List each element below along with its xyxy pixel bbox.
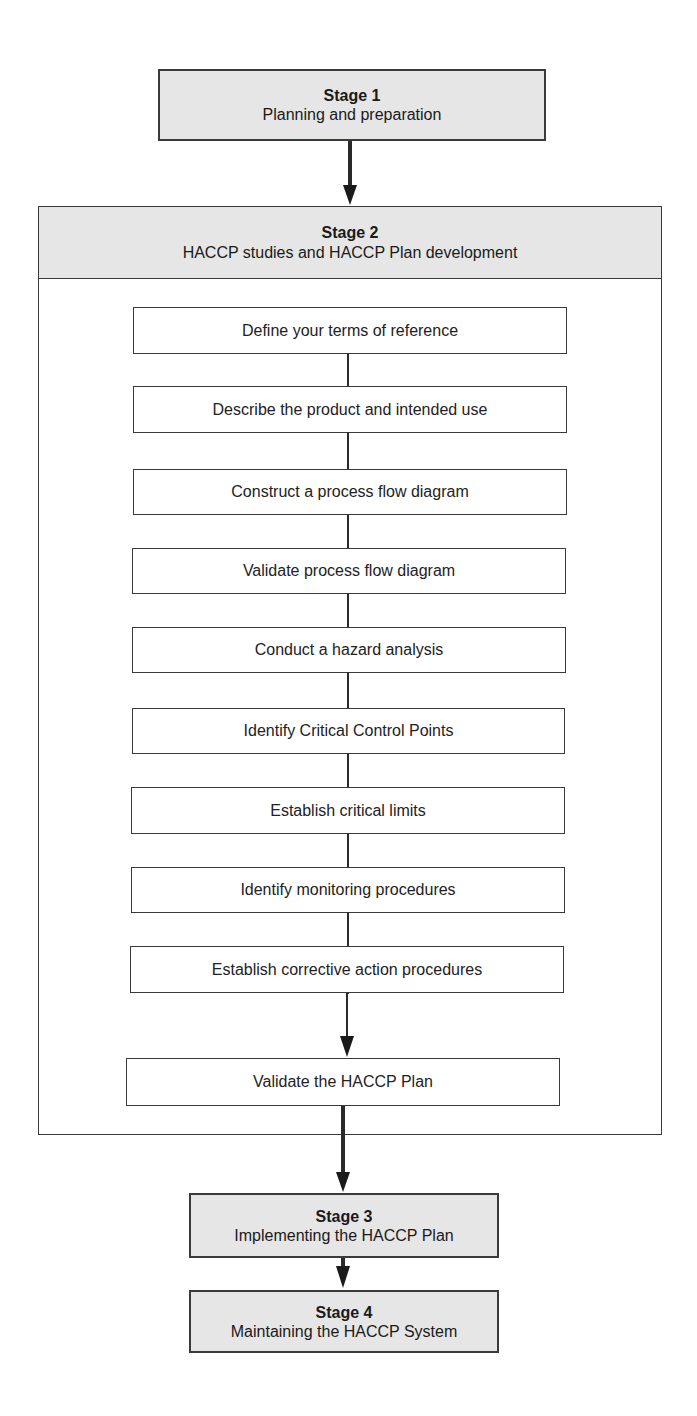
step-label: Define your terms of reference [242, 322, 458, 340]
stage-3-subtitle: Implementing the HACCP Plan [234, 1226, 453, 1245]
stage-2-title: Stage 2 [322, 223, 379, 243]
step-monitoring-procedures: Identify monitoring procedures [131, 867, 565, 913]
stage-3-box: Stage 3 Implementing the HACCP Plan [189, 1193, 499, 1258]
stage-2-subtitle: HACCP studies and HACCP Plan development [183, 243, 518, 263]
step-identify-ccps: Identify Critical Control Points [132, 708, 565, 754]
step-validate-haccp-plan: Validate the HACCP Plan [126, 1058, 560, 1106]
step-construct-flow-diagram: Construct a process flow diagram [133, 469, 567, 515]
step-label: Establish critical limits [270, 802, 426, 820]
arrow-down-icon [343, 185, 357, 205]
step-validate-flow-diagram: Validate process flow diagram [132, 548, 566, 594]
stage-1-box: Stage 1 Planning and preparation [158, 69, 546, 141]
step-label: Identify Critical Control Points [244, 722, 454, 740]
step-label: Validate the HACCP Plan [253, 1073, 433, 1091]
step-corrective-actions: Establish corrective action procedures [130, 946, 564, 993]
arrow-down-icon [340, 1036, 354, 1057]
stage-4-title: Stage 4 [316, 1303, 373, 1322]
connector-to-validate [346, 993, 348, 1038]
step-label: Conduct a hazard analysis [255, 641, 444, 659]
step-label: Describe the product and intended use [213, 401, 488, 419]
stage-4-box: Stage 4 Maintaining the HACCP System [189, 1290, 499, 1353]
connector-stage1-stage2 [348, 141, 352, 187]
step-hazard-analysis: Conduct a hazard analysis [132, 627, 566, 673]
stage-4-subtitle: Maintaining the HACCP System [231, 1322, 457, 1341]
stage-1-subtitle: Planning and preparation [263, 105, 442, 124]
connector-stage2-stage3 [341, 1106, 345, 1176]
step-label: Construct a process flow diagram [231, 483, 468, 501]
arrow-down-icon [336, 1266, 350, 1288]
step-terms-of-reference: Define your terms of reference [133, 307, 567, 354]
stage-1-title: Stage 1 [324, 86, 381, 105]
step-label: Identify monitoring procedures [240, 881, 455, 899]
step-label: Validate process flow diagram [243, 562, 455, 580]
step-label: Establish corrective action procedures [212, 961, 482, 979]
arrow-down-icon [336, 1172, 350, 1192]
stage-2-header: Stage 2 HACCP studies and HACCP Plan dev… [39, 207, 661, 279]
step-describe-product: Describe the product and intended use [133, 386, 567, 433]
step-critical-limits: Establish critical limits [131, 787, 565, 834]
stage-3-title: Stage 3 [316, 1207, 373, 1226]
